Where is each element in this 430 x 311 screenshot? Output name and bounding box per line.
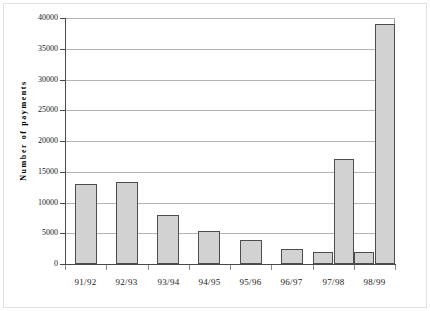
x-axis-tick-label: 95/96 <box>230 277 271 287</box>
bar <box>375 24 395 264</box>
bar <box>281 249 303 264</box>
y-axis-tick <box>60 49 65 50</box>
y-axis-tick <box>60 172 65 173</box>
x-axis-tick <box>230 265 231 270</box>
x-axis-tick-label: 93/94 <box>148 277 189 287</box>
x-axis-tick <box>106 265 107 270</box>
y-axis-tick-label: 40000 <box>14 14 58 22</box>
bar <box>198 231 220 264</box>
bars-layer <box>65 18 395 264</box>
x-axis-tick <box>148 265 149 270</box>
y-axis-tick <box>60 110 65 111</box>
y-axis-tick <box>60 18 65 19</box>
x-axis-tick-label: 94/95 <box>189 277 230 287</box>
bar-chart: 0500010000150002000025000300003500040000… <box>0 0 430 311</box>
y-axis-tick-labels: 0500010000150002000025000300003500040000 <box>8 0 58 311</box>
bar <box>334 159 354 264</box>
bar <box>240 240 262 264</box>
x-axis-tick-label: 91/92 <box>65 277 106 287</box>
bar <box>116 182 138 264</box>
x-axis-tick <box>395 265 396 270</box>
y-axis-tick <box>60 80 65 81</box>
y-axis-tick <box>60 203 65 204</box>
y-axis-title: Number of payments <box>19 56 28 206</box>
bar <box>75 184 97 264</box>
x-axis-tick <box>354 265 355 270</box>
y-axis-tick-label: 5000 <box>14 229 58 237</box>
bar <box>313 252 333 264</box>
y-axis-line <box>65 18 66 265</box>
x-axis-tick <box>189 265 190 270</box>
y-axis-tick <box>60 141 65 142</box>
x-axis-tick-label: 96/97 <box>271 277 312 287</box>
x-axis-tick <box>65 265 66 270</box>
bar <box>157 215 179 264</box>
bar <box>354 252 374 264</box>
y-axis-tick <box>60 233 65 234</box>
y-axis-tick-label: 35000 <box>14 45 58 53</box>
x-axis-tick <box>313 265 314 270</box>
x-axis-tick <box>271 265 272 270</box>
y-axis-tick-label: 0 <box>14 260 58 268</box>
x-axis-tick-label: 98/99 <box>354 277 395 287</box>
x-axis-tick-label: 92/93 <box>106 277 147 287</box>
x-axis-tick-label: 97/98 <box>313 277 354 287</box>
